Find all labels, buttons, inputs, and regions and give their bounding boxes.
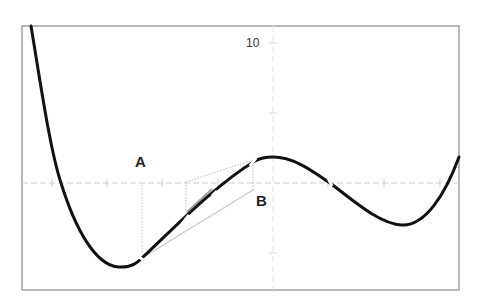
x-ticks	[52, 179, 440, 187]
chart-plot	[0, 0, 484, 304]
point-b-label: B	[256, 192, 267, 209]
plot-frame	[22, 26, 459, 290]
function-curve	[31, 26, 459, 267]
y-tick-label: 10	[246, 36, 259, 50]
point-a-label: A	[135, 153, 146, 170]
